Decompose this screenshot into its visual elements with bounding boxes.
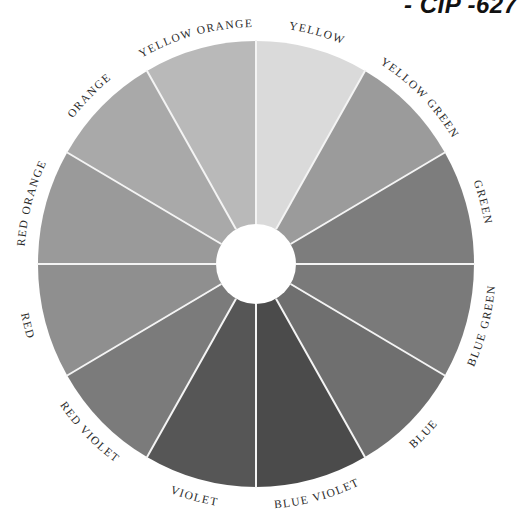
label-blue: BLUE xyxy=(407,417,440,451)
label-green: GREEN xyxy=(472,178,495,225)
label-violet: VIOLET xyxy=(169,483,220,508)
label-red: RED xyxy=(19,311,37,340)
label-yellow: YELLOW xyxy=(288,19,347,46)
center-hole xyxy=(216,224,296,304)
